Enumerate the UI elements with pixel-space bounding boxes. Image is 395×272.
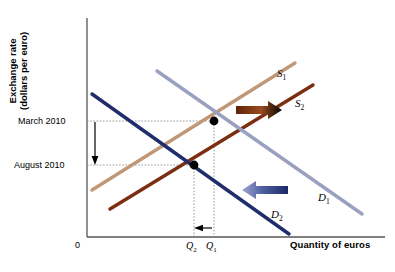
y-axis-title-line1: Exchange rate <box>7 38 18 103</box>
curve-label-s1: S1 <box>277 67 286 83</box>
x-tick-label-q2: Q2 <box>186 240 197 254</box>
quantity-drop-arrow <box>194 225 212 231</box>
curve-label-d1: D1 <box>318 191 330 207</box>
y-axis-title-line2: (dollars per euro) <box>19 21 30 121</box>
demand-shift-arrow <box>242 181 288 199</box>
supply-curve-s1 <box>92 63 295 190</box>
curve-label-d2: D2 <box>271 208 283 224</box>
price-drop-arrow <box>92 122 99 165</box>
equilibrium-point-march-2010 <box>210 117 219 126</box>
y-axis-title: Exchange rate (dollars per euro) <box>8 21 30 121</box>
x-tick-label-q1: Q1 <box>206 240 217 254</box>
curve-label-s2: S2 <box>295 97 304 113</box>
exchange-rate-supply-demand-figure: Exchange rate (dollars per euro) Quantit… <box>0 0 395 272</box>
origin-label: 0 <box>75 240 80 250</box>
equilibrium-point-august-2010 <box>190 161 199 170</box>
y-tick-label-august-2010: August 2010 <box>14 160 65 170</box>
plot-canvas <box>0 0 395 272</box>
x-axis-title: Quantity of euros <box>290 240 370 251</box>
y-tick-label-march-2010: March 2010 <box>18 116 66 126</box>
